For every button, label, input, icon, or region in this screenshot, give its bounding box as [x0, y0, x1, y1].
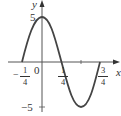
- neg-sign: −: [13, 70, 19, 80]
- frac-num: 1: [20, 66, 30, 77]
- x-axis-arrow-icon: [113, 60, 120, 65]
- cosine-graph: [0, 0, 121, 116]
- y-min-label: −5: [21, 102, 33, 113]
- y-axis-label: y: [32, 0, 37, 10]
- x-tick-label-neg-quarter: 1 4: [20, 66, 30, 86]
- y-max-label: 5: [30, 12, 36, 23]
- frac-num: 3: [98, 66, 108, 77]
- y-axis-arrow-icon: [40, 0, 45, 7]
- x-tick-label-quarter: 1 4: [58, 66, 68, 86]
- frac-den: 4: [98, 77, 108, 87]
- frac-num: 1: [58, 66, 68, 77]
- frac-den: 4: [58, 77, 68, 87]
- x-axis-label: x: [116, 67, 121, 78]
- origin-label: 0: [34, 65, 40, 76]
- x-tick-label-three-quarter: 3 4: [98, 66, 108, 86]
- frac-den: 4: [20, 77, 30, 87]
